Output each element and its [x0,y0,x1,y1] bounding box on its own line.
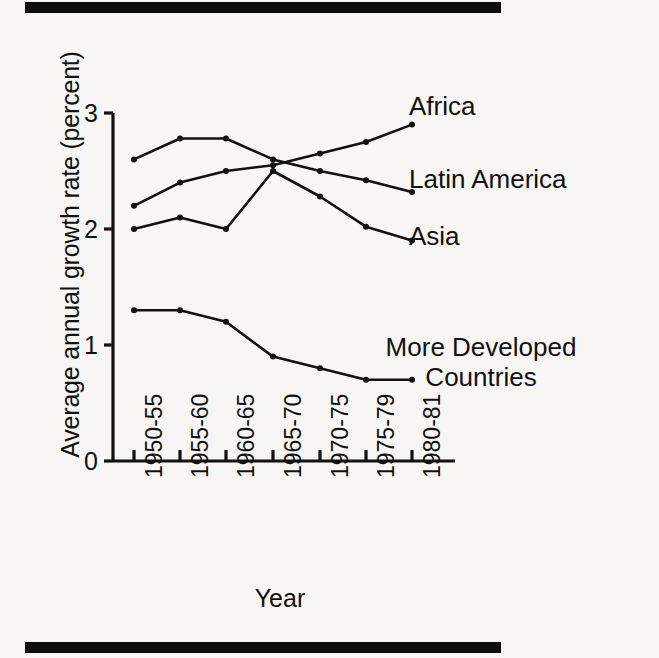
data-point [317,151,323,157]
data-point [409,122,415,128]
data-point [363,224,369,230]
data-point [131,226,137,232]
data-point [223,136,229,142]
y-tick-label-1: 1 [72,333,98,358]
series-label-asia: Asia [409,222,460,252]
x-tick-label-1970-75: 1970-75 [329,394,352,478]
x-tick-label-1950-55: 1950-55 [143,394,166,478]
figure-page: Average annual growth rate (percent) Yea… [0,0,659,658]
series-label-latin-america: Latin America [409,165,567,195]
data-point [270,354,276,360]
data-point [131,307,137,313]
series-label-more-developed-countries: More Developed Countries [366,333,596,393]
line-chart-plot [0,0,659,658]
data-point [131,203,137,209]
x-tick-label-1955-60: 1955-60 [189,394,212,478]
x-tick-label-1975-79: 1975-79 [375,394,398,478]
data-point [177,307,183,313]
y-tick-label-0: 0 [72,449,98,474]
data-point [317,194,323,200]
x-tick-label-1980-81: 1980-81 [421,394,444,478]
x-axis-ticks [134,450,412,461]
series-label-africa: Africa [409,92,475,122]
data-point [363,139,369,145]
data-point [317,365,323,371]
x-tick-label-1960-65: 1960-65 [235,394,258,478]
x-tick-label-1965-70: 1965-70 [282,394,305,478]
data-point [317,168,323,174]
data-point [270,162,276,168]
y-tick-label-2: 2 [72,217,98,242]
data-point [270,156,276,162]
y-tick-label-3: 3 [72,101,98,126]
data-point [177,180,183,186]
data-point [223,319,229,325]
data-point [270,168,276,174]
data-point [177,136,183,142]
data-point [363,177,369,183]
data-point [177,214,183,220]
data-point [223,226,229,232]
data-point [131,156,137,162]
data-point [223,168,229,174]
